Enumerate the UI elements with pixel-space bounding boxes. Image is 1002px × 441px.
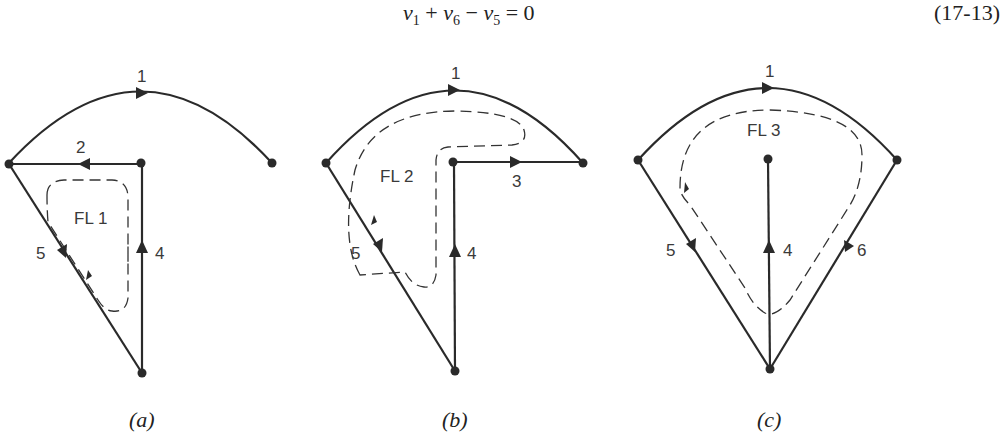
loop-label-fl3: FL 3 — [747, 121, 780, 140]
edge-4-arrow-icon — [763, 240, 775, 253]
node-right — [893, 156, 902, 165]
node-center — [449, 158, 458, 167]
loop-label-fl1: FL 1 — [74, 209, 107, 228]
edge-label-2: 2 — [76, 138, 85, 157]
edge-label-5: 5 — [666, 241, 675, 260]
edge-label-6: 6 — [857, 241, 866, 260]
fundamental-loop-2 — [349, 111, 525, 287]
edge-3-arrow-icon — [510, 156, 522, 168]
edge-label-1: 1 — [765, 62, 774, 81]
node-bottom — [766, 365, 775, 374]
node-right — [579, 159, 588, 168]
node-right — [268, 159, 277, 168]
edge-5 — [638, 160, 770, 369]
loop-1-arrow-icon — [86, 270, 92, 280]
node-center — [137, 159, 146, 168]
edge-4 — [454, 162, 455, 371]
edge-1-arrow-icon — [762, 82, 774, 94]
edge-label-4: 4 — [783, 241, 792, 260]
edge-1-arc — [9, 92, 272, 164]
caption-b: (b) — [442, 407, 468, 432]
edge-label-5: 5 — [351, 244, 360, 263]
loop-2-arrow-icon — [371, 215, 377, 225]
panel-b: 1 3 4 5 FL 2 (b) — [322, 64, 588, 432]
node-bottom — [138, 369, 147, 378]
edge-label-4: 4 — [155, 244, 164, 263]
edge-4 — [768, 159, 770, 369]
panel-c: 1 4 5 6 FL 3 (c) — [634, 62, 902, 432]
edge-1-arc — [326, 91, 583, 164]
edge-label-3: 3 — [512, 172, 521, 191]
loop-label-fl2: FL 2 — [380, 167, 413, 186]
caption-a: (a) — [129, 407, 155, 432]
edge-label-5: 5 — [36, 244, 45, 263]
panel-a: 1 2 4 5 FL 1 (a) — [5, 67, 277, 432]
fundamental-loop-1 — [47, 180, 128, 311]
node-left — [634, 156, 643, 165]
node-left — [5, 160, 14, 169]
edge-label-4: 4 — [467, 244, 476, 263]
caption-c: (c) — [757, 407, 781, 432]
loop-3-arrow-icon — [684, 182, 689, 193]
edge-1-arrow-icon — [136, 87, 148, 99]
fundamental-loop-3 — [680, 110, 862, 314]
edge-4-arrow-icon — [449, 244, 461, 257]
fundamental-loops-figure: 1 2 4 5 FL 1 (a) 1 3 4 5 FL 2 (b) — [0, 0, 1002, 441]
edge-6 — [770, 160, 897, 369]
edge-label-1: 1 — [451, 64, 460, 83]
edge-label-1: 1 — [137, 67, 146, 86]
node-bottom — [451, 367, 460, 376]
node-left — [322, 159, 331, 168]
edge-4-arrow-icon — [136, 240, 148, 253]
edge-2-arrow-icon — [78, 158, 90, 170]
node-center — [764, 155, 773, 164]
edge-5 — [9, 164, 142, 373]
edge-6-arrow-icon — [844, 240, 854, 252]
edge-1-arrow-icon — [448, 84, 460, 96]
